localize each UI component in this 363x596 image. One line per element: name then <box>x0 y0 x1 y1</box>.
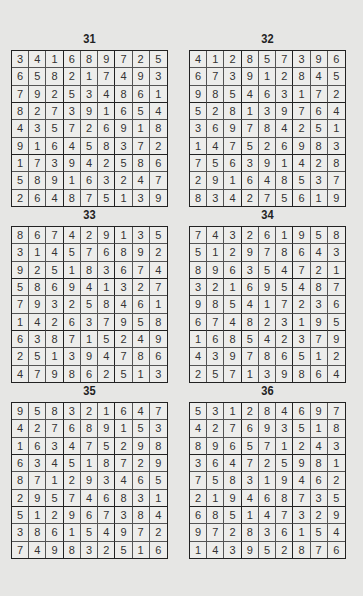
grid-cell: 3 <box>190 120 207 137</box>
grid-cell: 2 <box>328 86 345 103</box>
grid-cell: 7 <box>276 507 293 524</box>
grid-cell: 7 <box>190 227 207 244</box>
grid-cell: 1 <box>115 190 132 206</box>
grid-cell: 3 <box>81 86 98 103</box>
grid-cell: 6 <box>328 51 345 68</box>
grid-cell: 9 <box>259 420 276 437</box>
grid-cell: 4 <box>259 172 276 189</box>
grid-cell: 1 <box>46 51 63 68</box>
grid-cell: 5 <box>29 403 46 420</box>
grid-cell: 3 <box>328 138 345 155</box>
grid-cell: 2 <box>81 403 98 420</box>
grid-cell: 3 <box>207 348 224 365</box>
grid-cell: 1 <box>328 120 345 137</box>
grid-cell: 4 <box>190 420 207 437</box>
grid-cell: 5 <box>207 155 224 172</box>
grid-cell: 5 <box>276 279 293 296</box>
grid-cell: 3 <box>64 348 81 365</box>
grid-cell: 2 <box>293 438 310 455</box>
grid-cell: 3 <box>276 420 293 437</box>
grid-cell: 3 <box>293 331 310 348</box>
grid-cell: 5 <box>224 507 241 524</box>
grid-cell: 3 <box>133 490 150 507</box>
grid-cell: 9 <box>311 51 328 68</box>
grid-cell: 6 <box>98 490 115 507</box>
grid-cell: 9 <box>276 366 293 382</box>
grid-cell: 7 <box>98 314 115 331</box>
grid-cell: 7 <box>276 51 293 68</box>
grid-cell: 1 <box>46 472 63 489</box>
grid-cell: 7 <box>150 403 167 420</box>
grid-cell: 7 <box>293 490 310 507</box>
grid-cell: 4 <box>207 542 224 558</box>
grid-cell: 2 <box>224 244 241 261</box>
sudoku-puzzle-33: 33 8674291353145768929251836745869413277… <box>11 207 168 383</box>
grid-cell: 4 <box>64 138 81 155</box>
grid-cell: 5 <box>207 472 224 489</box>
grid-cell: 5 <box>133 103 150 120</box>
grid-cell: 3 <box>311 490 328 507</box>
grid-cell: 5 <box>64 244 81 261</box>
grid-cell: 3 <box>328 244 345 261</box>
grid-cell: 9 <box>224 120 241 137</box>
grid-cell: 8 <box>150 120 167 137</box>
grid-cell: 4 <box>133 403 150 420</box>
grid-cell: 2 <box>224 51 241 68</box>
grid-cell: 6 <box>133 472 150 489</box>
grid-cell: 7 <box>150 172 167 189</box>
grid-cell: 8 <box>328 227 345 244</box>
grid-cell: 8 <box>276 172 293 189</box>
grid-cell: 1 <box>207 244 224 261</box>
grid-cell: 9 <box>150 190 167 206</box>
grid-cell: 3 <box>190 279 207 296</box>
grid-cell: 1 <box>328 262 345 279</box>
grid-cell: 7 <box>64 120 81 137</box>
grid-cell: 5 <box>190 244 207 261</box>
grid-cell: 3 <box>81 314 98 331</box>
grid-cell: 8 <box>150 314 167 331</box>
grid-cell: 6 <box>242 172 259 189</box>
grid-cell: 9 <box>29 296 46 313</box>
grid-cell: 5 <box>293 420 310 437</box>
grid-cell: 2 <box>190 172 207 189</box>
grid-cell: 7 <box>64 490 81 507</box>
grid-cell: 3 <box>311 296 328 313</box>
grid-cell: 6 <box>190 507 207 524</box>
grid-cell: 9 <box>224 348 241 365</box>
grid-cell: 1 <box>224 279 241 296</box>
grid-cell: 5 <box>12 507 29 524</box>
grid-cell: 3 <box>242 472 259 489</box>
grid-cell: 9 <box>81 103 98 120</box>
grid-cell: 3 <box>259 366 276 382</box>
grid-cell: 7 <box>46 103 63 120</box>
grid-cell: 8 <box>29 279 46 296</box>
grid-cell: 5 <box>46 490 63 507</box>
grid-cell: 1 <box>190 542 207 558</box>
grid-cell: 3 <box>98 472 115 489</box>
grid-cell: 1 <box>29 507 46 524</box>
grid-cell: 1 <box>133 366 150 382</box>
grid-cell: 4 <box>46 244 63 261</box>
grid-cell: 5 <box>328 68 345 85</box>
puzzle-number: 32 <box>201 31 334 47</box>
sudoku-grid: 3416897256582174937925348618273916544357… <box>11 50 168 207</box>
grid-cell: 9 <box>190 296 207 313</box>
grid-cell: 5 <box>276 455 293 472</box>
grid-cell: 5 <box>293 172 310 189</box>
grid-cell: 7 <box>328 172 345 189</box>
grid-cell: 2 <box>133 279 150 296</box>
grid-cell: 6 <box>311 366 328 382</box>
grid-cell: 1 <box>81 455 98 472</box>
grid-cell: 1 <box>207 51 224 68</box>
grid-cell: 9 <box>224 490 241 507</box>
grid-cell: 4 <box>150 507 167 524</box>
grid-cell: 7 <box>242 455 259 472</box>
grid-cell: 5 <box>81 296 98 313</box>
grid-cell: 4 <box>12 420 29 437</box>
grid-cell: 8 <box>328 420 345 437</box>
grid-cell: 7 <box>224 138 241 155</box>
grid-cell: 3 <box>207 403 224 420</box>
grid-cell: 9 <box>207 172 224 189</box>
grid-cell: 9 <box>150 331 167 348</box>
grid-cell: 8 <box>259 403 276 420</box>
